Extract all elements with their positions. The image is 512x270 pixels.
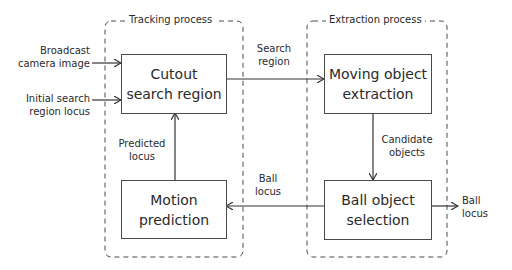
ball-locus-feedback-label: Ball locus [250,172,286,198]
ball-line1: Ball object [341,190,415,210]
cutout-line2: search region [126,84,221,104]
ball-line2: selection [341,210,415,230]
ball-object-selection-block: Ball object selection [324,180,432,240]
broadcast-camera-image-label: Broadcast camera image [4,44,90,70]
candidate-objects-label: Candidate objects [374,133,440,159]
cutout-search-region-block: Cutout search region [121,54,227,114]
cutout-line1: Cutout [126,64,221,84]
predicted-locus-label: Predicted locus [112,137,172,163]
ball-locus-output-label: Ball locus [462,194,502,220]
moving-line1: Moving object [329,64,427,84]
motion-line2: prediction [139,210,209,230]
tracking-process-title: Tracking process [126,14,215,26]
motion-prediction-block: Motion prediction [121,180,227,239]
initial-search-region-locus-label: Initial search region locus [4,92,90,118]
motion-line1: Motion [139,190,209,210]
moving-line2: extraction [329,84,427,104]
extraction-process-title: Extraction process [326,14,425,26]
search-region-label: Search region [244,42,304,68]
moving-object-extraction-block: Moving object extraction [324,54,432,114]
